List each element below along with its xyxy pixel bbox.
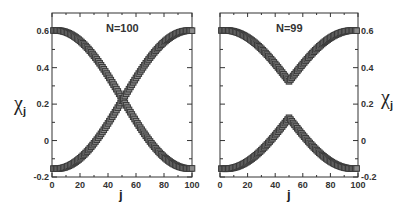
left-ylabel: χj (13, 92, 26, 117)
x-tick-label: 40 (270, 180, 280, 190)
y-tick-label: 0.6 (361, 26, 374, 36)
x-tick-label: 100 (184, 180, 199, 190)
x-tick-label: 20 (75, 180, 85, 190)
y-tick-label: -0.2 (361, 172, 377, 182)
x-tick-label: 0 (49, 180, 54, 190)
x-tick-label: 40 (103, 180, 113, 190)
chart-figure: 020406080100-0.200.20.40.6 020406080100-… (0, 0, 411, 212)
x-tick-label: 20 (243, 180, 253, 190)
x-tick-label: 60 (131, 180, 141, 190)
left-panel-n100: 020406080100-0.200.20.40.6 (33, 13, 199, 190)
left-xlabel: j (118, 187, 123, 202)
right-annotation: N=99 (276, 22, 303, 34)
y-tick-label: 0 (361, 136, 366, 146)
x-tick-label: 0 (217, 180, 222, 190)
data-marker (189, 28, 195, 34)
x-tick-label: 80 (159, 180, 169, 190)
data-marker (354, 166, 360, 172)
data-marker (354, 28, 360, 34)
x-tick-label: 80 (325, 180, 335, 190)
right-xlabel: j (286, 187, 291, 202)
y-tick-label: 0.4 (361, 63, 374, 73)
y-tick-label: 0.4 (36, 63, 49, 73)
y-tick-label: 0.6 (36, 26, 49, 36)
right-panel-n99: 020406080100-0.200.20.40.6 (217, 13, 376, 190)
right-ylabel: χj (380, 86, 393, 111)
y-tick-label: -0.2 (33, 172, 49, 182)
data-marker (189, 166, 195, 172)
y-tick-label: 0 (44, 136, 49, 146)
y-tick-label: 0.2 (36, 99, 49, 109)
left-annotation: N=100 (106, 22, 139, 34)
x-tick-label: 60 (298, 180, 308, 190)
y-tick-label: 0.2 (361, 99, 374, 109)
